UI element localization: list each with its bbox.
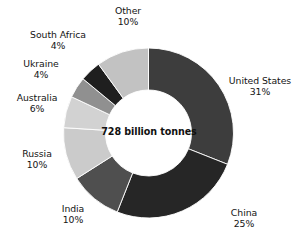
donut-slice-united-states — [149, 48, 234, 164]
slice-label-russia-name: Russia — [6, 149, 68, 160]
slice-label-other: Other 10% — [98, 6, 158, 27]
slice-label-south-africa: South Africa 4% — [18, 30, 98, 51]
donut-chart: Other 10% South Africa 4% Ukraine 4% Aus… — [0, 0, 303, 248]
slice-label-united-states-name: United States — [220, 76, 300, 87]
slice-label-russia-value: 10% — [6, 160, 68, 171]
slice-label-china: China 25% — [216, 208, 272, 229]
slice-label-ukraine: Ukraine 4% — [8, 59, 74, 80]
slice-label-other-name: Other — [98, 6, 158, 17]
slice-label-south-africa-value: 4% — [18, 41, 98, 52]
slice-label-south-africa-name: South Africa — [18, 30, 98, 41]
slice-label-united-states-value: 31% — [220, 87, 300, 98]
donut-center-label: 728 billion tonnes — [90, 126, 208, 137]
slice-label-australia-name: Australia — [2, 93, 72, 104]
slice-label-ukraine-name: Ukraine — [8, 59, 74, 70]
slice-label-russia: Russia 10% — [6, 149, 68, 170]
slice-label-australia: Australia 6% — [2, 93, 72, 114]
slice-label-other-value: 10% — [98, 17, 158, 28]
slice-label-australia-value: 6% — [2, 104, 72, 115]
donut-slice-china — [117, 149, 227, 218]
slice-label-india: India 10% — [44, 204, 102, 225]
slice-label-india-value: 10% — [44, 215, 102, 226]
slice-label-united-states: United States 31% — [220, 76, 300, 97]
slice-label-india-name: India — [44, 204, 102, 215]
slice-label-china-name: China — [216, 208, 272, 219]
slice-label-ukraine-value: 4% — [8, 70, 74, 81]
slice-label-china-value: 25% — [216, 219, 272, 230]
